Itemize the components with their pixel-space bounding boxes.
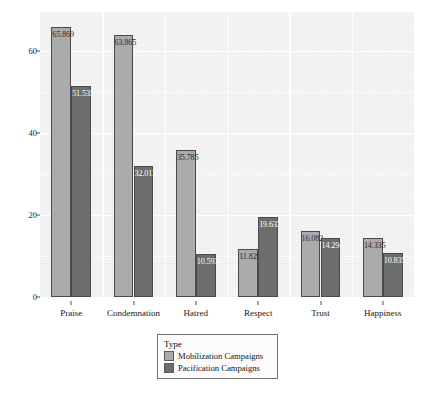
bar[interactable]: 19.633	[258, 217, 278, 298]
legend-item[interactable]: Pacification Campaigns	[164, 363, 272, 373]
x-axis-tick-mark	[320, 301, 321, 305]
bar-value-label: 11.829	[239, 252, 257, 261]
legend-label: Mobilization Campaigns	[178, 351, 263, 361]
x-axis-tick-label: Trust	[311, 308, 330, 318]
legend-item[interactable]: Mobilization Campaigns	[164, 351, 272, 361]
bar[interactable]: 35.785	[176, 150, 196, 297]
bar[interactable]: 16.082	[301, 231, 321, 297]
bar[interactable]: 10.593	[196, 254, 216, 297]
gridline-vertical	[165, 12, 166, 297]
legend-title: Type	[164, 339, 272, 349]
x-axis-tick-mark	[133, 301, 134, 305]
bar-value-label: 10.835	[384, 256, 402, 265]
bar-value-label: 14.294	[322, 241, 340, 250]
bar[interactable]: 10.835	[383, 253, 403, 297]
gridline-vertical	[227, 12, 228, 297]
bar[interactable]: 51.535	[71, 86, 91, 297]
y-axis-tick-mark	[36, 214, 40, 215]
gridline-vertical	[289, 12, 290, 297]
bar-value-label: 10.593	[197, 257, 215, 266]
legend: Type Mobilization CampaignsPacification …	[157, 334, 278, 379]
bar-value-label: 16.082	[302, 234, 320, 243]
bar-value-label: 63.865	[115, 38, 133, 47]
plot-panel: 65.86951.53563.86532.01335.78510.59311.8…	[40, 12, 414, 297]
x-axis-tick-mark	[71, 301, 72, 305]
x-axis-tick-label: Respect	[244, 308, 273, 318]
x-axis-tick-label: Condemnation	[107, 308, 160, 318]
x-axis: PraiseCondemnationHatredRespectTrustHapp…	[40, 297, 414, 331]
x-axis-tick-mark	[382, 301, 383, 305]
legend-entries: Mobilization CampaignsPacification Campa…	[164, 351, 272, 373]
y-axis-tick-mark	[36, 50, 40, 51]
bar[interactable]: 65.869	[51, 27, 71, 297]
x-axis-tick-label: Praise	[60, 308, 82, 318]
bar-value-label: 14.335	[364, 241, 382, 250]
y-axis: 0204060	[0, 12, 40, 297]
x-axis-tick-label: Hatred	[184, 308, 209, 318]
legend-swatch	[164, 363, 174, 373]
gridline-vertical	[102, 12, 103, 297]
bar[interactable]: 63.865	[114, 35, 134, 297]
legend-swatch	[164, 351, 174, 361]
x-axis-tick-mark	[258, 301, 259, 305]
gridline-vertical	[352, 12, 353, 297]
caption-strip	[0, 381, 432, 393]
bar[interactable]: 32.013	[134, 166, 154, 297]
bar-value-label: 65.869	[52, 30, 70, 39]
bar[interactable]: 11.829	[238, 249, 258, 298]
bar-value-label: 32.013	[135, 169, 153, 178]
legend-label: Pacification Campaigns	[178, 363, 260, 373]
bar-value-label: 19.633	[259, 220, 277, 229]
bar-chart: 65.86951.53563.86532.01335.78510.59311.8…	[0, 0, 432, 393]
bar[interactable]: 14.335	[363, 238, 383, 297]
y-axis-tick-mark	[36, 132, 40, 133]
bar-value-label: 35.785	[177, 153, 195, 162]
bar-value-label: 51.535	[72, 89, 90, 98]
x-axis-tick-label: Happiness	[364, 308, 402, 318]
x-axis-tick-mark	[195, 301, 196, 305]
bar[interactable]: 14.294	[321, 238, 341, 297]
